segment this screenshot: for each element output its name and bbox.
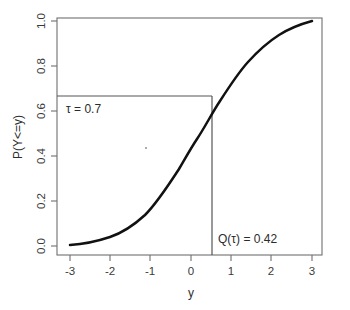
x-tick-label: -3 (65, 265, 75, 277)
y-tick-label: 1.0 (35, 13, 47, 29)
scan-artifact-speckle (145, 147, 147, 149)
x-tick-label: 2 (268, 265, 274, 277)
figure-background (0, 0, 350, 310)
x-tick-label: -2 (105, 265, 115, 277)
y-tick-label: 0.0 (35, 238, 47, 254)
x-axis-title: y (188, 286, 194, 300)
y-tick-label: 0.4 (35, 147, 47, 164)
x-tick-label: 0 (188, 265, 194, 277)
y-tick-label: 0.6 (35, 103, 47, 119)
y-tick-label: 0.2 (35, 193, 47, 209)
x-tick-label: 3 (309, 265, 315, 277)
quantile-annotation-label: Q(τ) = 0.42 (218, 232, 277, 246)
cdf-plot-figure: -3 -2 -1 0 1 2 3 0.0 0.2 0.4 0.6 0.8 1.0 (0, 0, 350, 310)
x-tick-label: -1 (145, 265, 155, 277)
y-axis-title: P(Y<=y) (11, 115, 25, 159)
x-tick-label: 1 (228, 265, 234, 277)
y-tick-label: 0.8 (35, 58, 47, 74)
tau-annotation-label: τ = 0.7 (66, 102, 101, 116)
plot-canvas: -3 -2 -1 0 1 2 3 0.0 0.2 0.4 0.6 0.8 1.0 (0, 0, 350, 310)
